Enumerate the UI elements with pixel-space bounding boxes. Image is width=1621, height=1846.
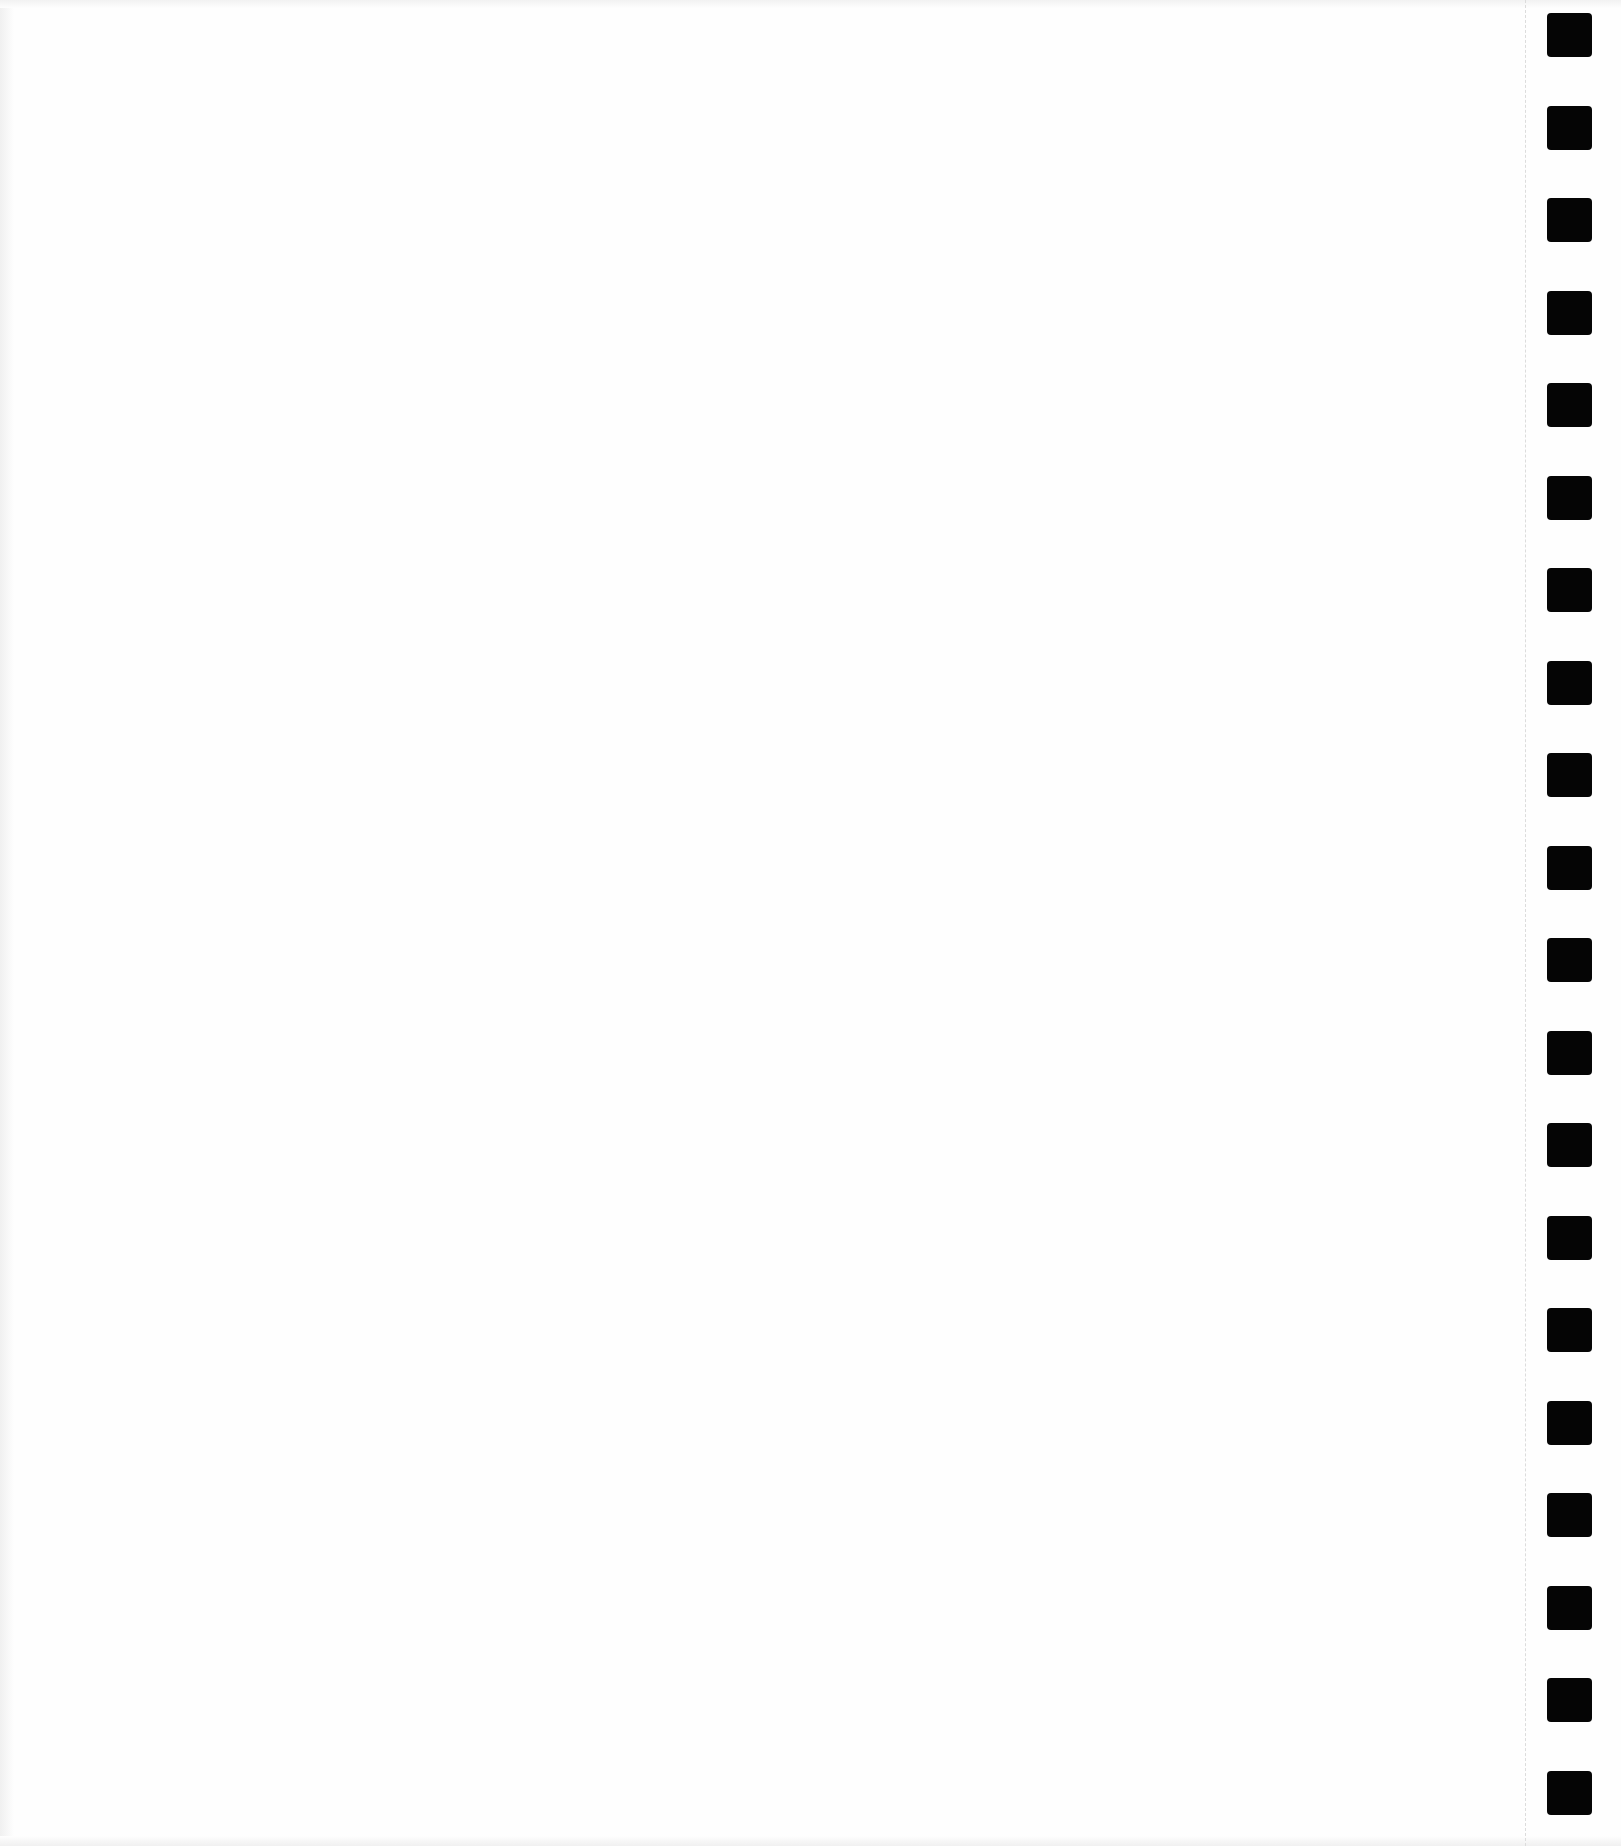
feed-hole-square-icon <box>1547 1771 1592 1815</box>
perforation-line <box>1525 0 1526 1846</box>
feed-hole-square-icon <box>1547 198 1592 242</box>
feed-hole-square-icon <box>1547 106 1592 150</box>
feed-hole-square-icon <box>1547 1586 1592 1630</box>
feed-hole-square-icon <box>1547 1216 1592 1260</box>
feed-hole-square-icon <box>1547 476 1592 520</box>
blank-paper-page <box>0 0 1621 1846</box>
feed-hole-square-icon <box>1547 383 1592 427</box>
page-left-edge-shadow <box>0 0 14 1846</box>
feed-hole-square-icon <box>1547 661 1592 705</box>
page-bottom-edge-shadow <box>0 1836 1621 1846</box>
feed-hole-square-icon <box>1547 13 1592 57</box>
tractor-feed-hole-strip <box>1547 0 1595 1846</box>
feed-hole-square-icon <box>1547 1123 1592 1167</box>
feed-hole-square-icon <box>1547 1031 1592 1075</box>
feed-hole-square-icon <box>1547 1308 1592 1352</box>
feed-hole-square-icon <box>1547 753 1592 797</box>
feed-hole-square-icon <box>1547 1401 1592 1445</box>
page-top-edge-shadow <box>0 0 1621 8</box>
feed-hole-square-icon <box>1547 938 1592 982</box>
feed-hole-square-icon <box>1547 291 1592 335</box>
feed-hole-square-icon <box>1547 1493 1592 1537</box>
feed-hole-square-icon <box>1547 568 1592 612</box>
feed-hole-square-icon <box>1547 1678 1592 1722</box>
feed-hole-square-icon <box>1547 846 1592 890</box>
